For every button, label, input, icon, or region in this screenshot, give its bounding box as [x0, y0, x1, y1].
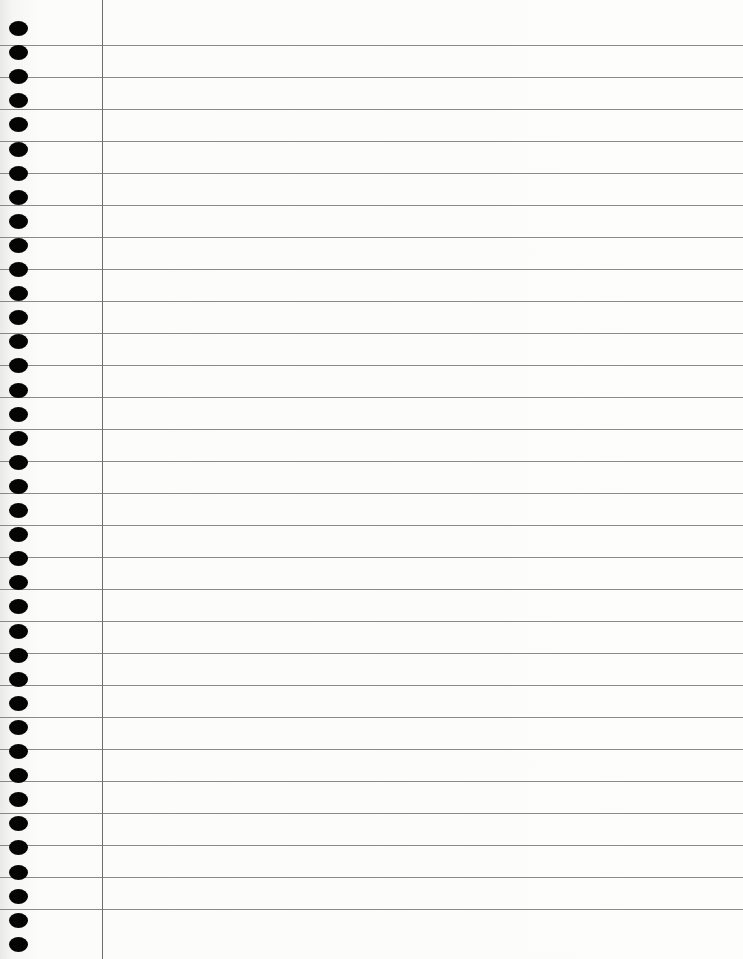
- binding-hole-icon: [9, 889, 28, 904]
- ruled-line: [0, 333, 743, 334]
- binding-hole-icon: [9, 865, 28, 880]
- binding-hole-icon: [9, 262, 28, 277]
- binding-hole-icon: [9, 503, 28, 518]
- ruled-line: [0, 301, 743, 302]
- binding-hole-icon: [9, 527, 28, 542]
- binding-hole-icon: [9, 744, 28, 759]
- binding-hole-icon: [9, 816, 28, 831]
- ruled-line: [0, 109, 743, 110]
- binding-hole-icon: [9, 142, 28, 157]
- binding-hole-icon: [9, 720, 28, 735]
- binding-hole-icon: [9, 310, 28, 325]
- ruled-line: [0, 909, 743, 910]
- binding-hole-icon: [9, 383, 28, 398]
- binding-hole-icon: [9, 166, 28, 181]
- ruled-line: [0, 237, 743, 238]
- binding-hole-icon: [9, 672, 28, 687]
- ruled-line: [0, 749, 743, 750]
- binding-hole-icon: [9, 407, 28, 422]
- ruled-line: [0, 45, 743, 46]
- ruled-line: [0, 525, 743, 526]
- binding-hole-icon: [9, 455, 28, 470]
- ruled-line: [0, 429, 743, 430]
- binding-hole-icon: [9, 599, 28, 614]
- binding-hole-icon: [9, 238, 28, 253]
- ruled-line: [0, 397, 743, 398]
- ruled-line: [0, 141, 743, 142]
- binding-hole-icon: [9, 45, 28, 60]
- binding-hole-icon: [9, 93, 28, 108]
- ruled-line: [0, 685, 743, 686]
- ruled-line: [0, 173, 743, 174]
- ruled-line: [0, 621, 743, 622]
- ruled-line: [0, 781, 743, 782]
- ruled-line: [0, 845, 743, 846]
- binding-hole-icon: [9, 214, 28, 229]
- ruled-line: [0, 717, 743, 718]
- ruled-line: [0, 269, 743, 270]
- ruled-line: [0, 557, 743, 558]
- ruled-line: [0, 653, 743, 654]
- ruled-line: [0, 877, 743, 878]
- binding-hole-icon: [9, 358, 28, 373]
- binding-hole-icon: [9, 551, 28, 566]
- binding-hole-icon: [9, 624, 28, 639]
- ruled-line: [0, 365, 743, 366]
- binding-hole-icon: [9, 840, 28, 855]
- binding-hole-icon: [9, 431, 28, 446]
- binding-hole-icon: [9, 21, 28, 36]
- ruled-line: [0, 205, 743, 206]
- binding-hole-icon: [9, 937, 28, 952]
- binding-hole-icon: [9, 768, 28, 783]
- binding-hole-icon: [9, 286, 28, 301]
- binding-hole-icon: [9, 575, 28, 590]
- binding-hole-icon: [9, 648, 28, 663]
- binding-hole-icon: [9, 792, 28, 807]
- binding-hole-icon: [9, 334, 28, 349]
- ruled-line: [0, 493, 743, 494]
- binding-hole-icon: [9, 913, 28, 928]
- ruled-line: [0, 77, 743, 78]
- notebook-page: [0, 0, 743, 959]
- binding-hole-icon: [9, 190, 28, 205]
- binding-hole-icon: [9, 117, 28, 132]
- binding-hole-icon: [9, 696, 28, 711]
- binding-hole-icon: [9, 69, 28, 84]
- ruled-line: [0, 461, 743, 462]
- ruled-line: [0, 813, 743, 814]
- margin-line: [102, 0, 103, 959]
- ruled-line: [0, 589, 743, 590]
- binding-hole-icon: [9, 479, 28, 494]
